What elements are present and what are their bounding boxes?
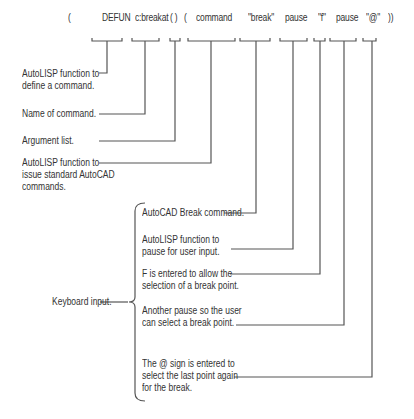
annotation-at: The @ sign is entered to select the last… bbox=[142, 358, 238, 394]
annotation-command-name: Name of command. bbox=[22, 108, 96, 120]
annotation-argument-list: Argument list. bbox=[22, 135, 74, 147]
annotation-pause-2: Another pause so the user can select a b… bbox=[142, 305, 242, 329]
annotation-break: AutoCAD Break command. bbox=[142, 207, 244, 219]
annotation-command: AutoLISP function to issue standard Auto… bbox=[22, 157, 115, 193]
annotation-pause-1: AutoLISP function to pause for user inpu… bbox=[142, 234, 219, 258]
annotation-keyboard-input: Keyboard input. bbox=[52, 296, 112, 308]
annotation-defun: AutoLISP function to define a command. bbox=[22, 68, 99, 92]
annotation-f: F is entered to allow the selection of a… bbox=[142, 268, 239, 292]
